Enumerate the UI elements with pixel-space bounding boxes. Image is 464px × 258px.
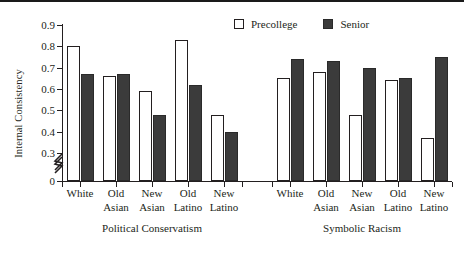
x-category-line1: White	[277, 187, 304, 199]
y-tick-label: 0	[50, 175, 56, 187]
y-tick-label: 0.3	[41, 147, 55, 159]
bar-precollege-white	[67, 46, 80, 181]
y-tick-label: 0.9	[41, 19, 55, 31]
bar-senior-new-latino	[435, 57, 448, 181]
x-category-line2: Latino	[174, 200, 203, 214]
x-category-label: NewAsian	[139, 186, 165, 214]
x-category-line1: New	[352, 187, 373, 199]
bar-senior-old-latino	[189, 85, 202, 181]
y-tick-label: 0.7	[41, 62, 55, 74]
y-tick-label: 0.5	[41, 104, 55, 116]
x-category-line1: Old	[180, 187, 197, 199]
x-category-line1: New	[214, 187, 235, 199]
bar-precollege-old-asian	[103, 76, 116, 181]
x-category-line1: Old	[108, 187, 125, 199]
bars-layer	[62, 24, 452, 182]
x-category-line1: Old	[390, 187, 407, 199]
bar-precollege-old-latino	[175, 40, 188, 181]
bar-senior-new-asian	[363, 68, 376, 181]
x-category-label: White	[67, 186, 94, 200]
x-category-label: OldAsian	[313, 186, 339, 214]
x-category-line2: Latino	[384, 200, 413, 214]
x-category-line2: Asian	[139, 200, 165, 214]
x-category-line1: New	[424, 187, 445, 199]
bar-senior-old-asian	[327, 61, 340, 181]
x-category-line1: New	[142, 187, 163, 199]
x-tick	[452, 182, 453, 187]
x-category-line2: Asian	[103, 200, 129, 214]
bar-precollege-old-latino	[385, 80, 398, 181]
y-tick-label: 0.8	[41, 40, 55, 52]
x-tick	[242, 182, 243, 187]
x-tick	[62, 182, 63, 187]
x-category-label: NewLatino	[420, 186, 449, 214]
x-category-line2: Latino	[210, 200, 239, 214]
chart-figure: Internal Consistency Precollege Senior 0…	[0, 0, 464, 258]
x-category-line2: Asian	[313, 200, 339, 214]
bar-senior-new-asian	[153, 115, 166, 181]
y-axis-title: Internal Consistency	[13, 44, 24, 184]
bar-senior-new-latino	[225, 132, 238, 181]
group-title-political-conservatism: Political Conservatism	[102, 222, 202, 234]
x-category-label: OldLatino	[174, 186, 203, 214]
x-category-label: White	[277, 186, 304, 200]
x-category-line2: Asian	[349, 200, 375, 214]
bar-senior-white	[291, 59, 304, 181]
x-category-line1: White	[67, 187, 94, 199]
bar-senior-old-asian	[117, 74, 130, 181]
bar-precollege-new-asian	[349, 115, 362, 181]
x-category-label: OldAsian	[103, 186, 129, 214]
top-rule	[0, 0, 464, 2]
bar-precollege-new-latino	[211, 115, 224, 181]
bar-precollege-new-latino	[421, 138, 434, 181]
x-category-line2: Latino	[420, 200, 449, 214]
plot-area: 0.90.80.70.60.50.40.30	[62, 24, 452, 182]
bar-senior-white	[81, 74, 94, 181]
bar-senior-old-latino	[399, 78, 412, 181]
x-category-line1: Old	[318, 187, 335, 199]
y-tick-label: 0.4	[41, 126, 55, 138]
bar-precollege-new-asian	[139, 91, 152, 181]
bar-precollege-white	[277, 78, 290, 181]
y-tick-label: 0.6	[41, 83, 55, 95]
x-tick	[272, 182, 273, 187]
group-title-symbolic-racism: Symbolic Racism	[323, 222, 401, 234]
x-category-label: OldLatino	[384, 186, 413, 214]
x-category-label: NewAsian	[349, 186, 375, 214]
bar-precollege-old-asian	[313, 72, 326, 181]
x-category-label: NewLatino	[210, 186, 239, 214]
